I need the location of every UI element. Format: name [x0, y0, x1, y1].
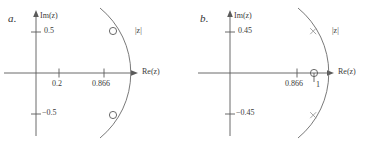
real-axis-arrowhead-a — [131, 70, 138, 76]
panel-a: a. Im(z) Re(z) 0.5 −0.5 0.2 0.866 — [0, 0, 187, 148]
real-tick-label-1-a: 0.866 — [92, 80, 110, 88]
imaginary-axis-arrowhead-b — [227, 10, 233, 17]
panel-b: b. — [186, 0, 373, 148]
real-axis-label-b: Re(z) — [338, 68, 356, 76]
figure-container: a. Im(z) Re(z) 0.5 −0.5 0.2 0.866 — [0, 0, 373, 148]
real-tick-label-1-b: 1 — [316, 81, 320, 89]
real-axis-arrowhead-b — [327, 70, 334, 76]
imaginary-tick-label-0-b: 0.45 — [238, 27, 252, 35]
real-axis-label-a: Re(z) — [142, 68, 160, 76]
pole-marker-lower-b — [310, 112, 316, 118]
pole-marker-upper-b — [310, 28, 316, 34]
imaginary-axis-label-b: Im(z) — [234, 12, 252, 20]
imaginary-tick-label-0-a: 0.5 — [44, 27, 54, 35]
pole-marker-upper-a — [109, 27, 116, 34]
real-tick-label-0-b: 0.866 — [285, 80, 303, 88]
modulus-label-a: |z| — [135, 27, 142, 35]
modulus-label-b: |z| — [332, 27, 339, 35]
real-tick-label-0-a: 0.2 — [52, 80, 62, 88]
imaginary-axis-label-a: Im(z) — [40, 12, 58, 20]
imaginary-tick-label-1-a: −0.5 — [42, 109, 57, 117]
pole-marker-lower-a — [109, 111, 116, 118]
imaginary-axis-arrowhead-a — [33, 10, 39, 17]
imaginary-tick-label-1-b: −0.45 — [236, 109, 255, 117]
